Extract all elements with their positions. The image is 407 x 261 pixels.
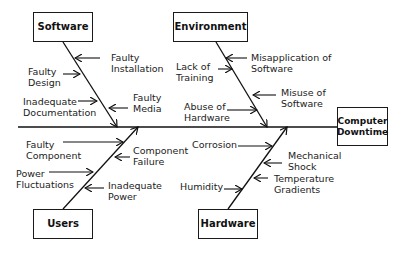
cause-label: Component Failure: [133, 145, 188, 167]
cause-label: Temperature Gradients: [274, 173, 334, 195]
category-users: Users: [33, 209, 93, 239]
category-label: Hardware: [201, 218, 256, 230]
cause-label: Inadequate Documentation: [23, 96, 96, 118]
cause-label: Misuse of Software: [281, 87, 326, 109]
category-environment: Environment: [173, 12, 248, 42]
cause-label: Corrosion: [192, 139, 237, 150]
cause-label: Abuse of Hardware: [184, 101, 230, 123]
category-label: Users: [47, 218, 79, 230]
category-label: Software: [38, 21, 89, 33]
cause-label: Misapplication of Software: [251, 52, 331, 74]
cause-label: Inadequate Power: [108, 180, 162, 202]
category-label: Environment: [175, 21, 247, 33]
cause-label: Lack of Training: [176, 61, 214, 83]
effect-label: Computer Downtime: [337, 116, 388, 138]
cause-label: Mechanical Shock: [288, 150, 341, 172]
cause-label: Humidity: [180, 181, 223, 192]
cause-label: Faulty Component: [26, 139, 81, 161]
cause-label: Faulty Media: [133, 92, 162, 114]
cause-label: Power Fluctuations: [16, 168, 74, 190]
category-software: Software: [33, 12, 93, 42]
effect-box: Computer Downtime: [337, 107, 388, 146]
cause-label: Faulty Installation: [111, 52, 164, 74]
fishbone-diagram: Software Environment Users Hardware Comp…: [0, 0, 407, 261]
cause-label: Faulty Design: [28, 66, 61, 88]
category-hardware: Hardware: [198, 209, 258, 239]
